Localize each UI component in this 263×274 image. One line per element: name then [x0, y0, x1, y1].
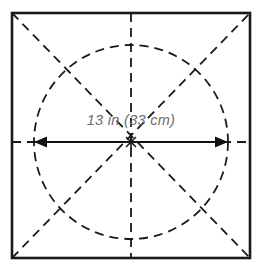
center-point-mark-group	[124, 135, 138, 149]
dimension-arrowhead-right	[215, 137, 228, 148]
dimension-arrowhead-left	[34, 137, 47, 148]
diameter-dimension-label: 13 in (33 cm)	[87, 112, 176, 128]
diagram-canvas: 13 in (33 cm)	[0, 0, 263, 274]
diagram-svg: 13 in (33 cm)	[0, 0, 263, 274]
